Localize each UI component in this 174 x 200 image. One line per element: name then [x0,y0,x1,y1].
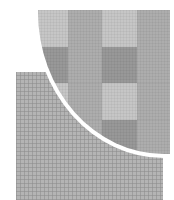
magnified-cell [137,83,170,120]
magnified-cell [102,10,137,47]
magnified-cell [137,120,170,154]
magnified-cell [68,120,102,154]
magnified-cell [102,83,137,120]
magnifier-lens [38,10,170,154]
magnified-cell [38,83,68,120]
magnified-cell [137,47,170,83]
magnified-cell [38,47,68,83]
magnified-cell [68,10,102,47]
magnified-cell [68,83,102,120]
magnified-cell [102,47,137,83]
magnified-cell [38,10,68,47]
magnified-cell [68,47,102,83]
magnified-cell [38,120,68,154]
magnification-diagram [0,0,174,200]
magnified-cell [102,120,137,154]
magnified-cell [137,10,170,47]
